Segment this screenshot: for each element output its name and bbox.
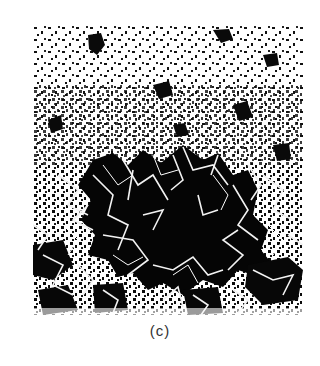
micrograph-panel (33, 25, 303, 315)
micrograph-image (33, 25, 303, 315)
panel-label: (c) (0, 322, 320, 339)
figure: (c) (0, 0, 320, 366)
